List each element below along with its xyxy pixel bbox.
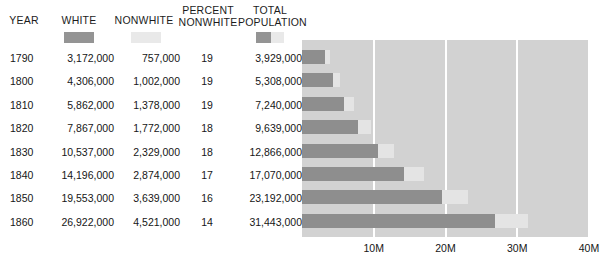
- bar-segment-white: [302, 167, 404, 181]
- cell-white: 3,172,000: [42, 51, 114, 65]
- column-header-total-population: TOTAL POPULATION: [238, 4, 302, 28]
- bar-1820: [302, 120, 371, 134]
- cell-white: 5,862,000: [42, 98, 114, 112]
- bar-segment-white: [302, 97, 344, 111]
- cell-nonwhite: 1,378,000: [112, 98, 180, 112]
- bar-segment-nonwhite: [442, 190, 468, 204]
- cell-nonwhite: 1,002,000: [112, 74, 180, 88]
- chart-x-axis: 10M20M30M40M: [302, 237, 605, 263]
- legend-swatch-total-nonwhite: [271, 32, 284, 43]
- cell-year: 1840: [2, 168, 46, 182]
- cell-year: 1860: [2, 215, 46, 229]
- bar-segment-white: [302, 50, 325, 64]
- cell-nonwhite: 3,639,000: [112, 191, 180, 205]
- bar-segment-white: [302, 144, 378, 158]
- cell-white: 14,196,000: [42, 168, 114, 182]
- cell-year: 1810: [2, 98, 46, 112]
- x-tick-label-40M: 40M: [579, 242, 599, 254]
- cell-percent-nonwhite: 19: [182, 51, 232, 65]
- bar-segment-nonwhite: [495, 214, 527, 228]
- table-row: 18207,867,0001,772,000189,639,000: [0, 118, 302, 141]
- cell-percent-nonwhite: 16: [182, 191, 232, 205]
- cell-nonwhite: 1,772,000: [112, 121, 180, 135]
- legend-swatch-white: [64, 32, 94, 43]
- gridline-20M: [445, 40, 447, 237]
- bar-segment-nonwhite: [344, 97, 354, 111]
- cell-total-population: 7,240,000: [230, 98, 302, 112]
- cell-percent-nonwhite: 14: [182, 215, 232, 229]
- cell-total-population: 31,443,000: [230, 215, 302, 229]
- cell-percent-nonwhite: 18: [182, 121, 232, 135]
- x-tick-label-10M: 10M: [364, 242, 384, 254]
- bar-1850: [302, 190, 468, 204]
- gridline-40M: [588, 40, 590, 237]
- cell-total-population: 17,070,000: [230, 168, 302, 182]
- cell-white: 10,537,000: [42, 145, 114, 159]
- bar-segment-nonwhite: [378, 144, 395, 158]
- bar-segment-white: [302, 214, 495, 228]
- cell-percent-nonwhite: 17: [182, 168, 232, 182]
- cell-total-population: 9,639,000: [230, 121, 302, 135]
- column-header-percent-nonwhite: PERCENT NONWHITE: [176, 4, 240, 28]
- cell-year: 1820: [2, 121, 46, 135]
- column-header-white: WHITE: [48, 14, 110, 26]
- bar-segment-nonwhite: [358, 120, 371, 134]
- cell-nonwhite: 2,874,000: [112, 168, 180, 182]
- legend-swatch-row: [0, 30, 302, 46]
- bar-1840: [302, 167, 424, 181]
- gridline-30M: [516, 40, 518, 237]
- cell-nonwhite: 757,000: [112, 51, 180, 65]
- bar-segment-nonwhite: [325, 50, 330, 64]
- cell-white: 4,306,000: [42, 74, 114, 88]
- table-row: 18105,862,0001,378,000197,240,000: [0, 95, 302, 118]
- cell-total-population: 5,308,000: [230, 74, 302, 88]
- cell-percent-nonwhite: 19: [182, 98, 232, 112]
- cell-year: 1830: [2, 145, 46, 159]
- cell-year: 1800: [2, 74, 46, 88]
- bar-1800: [302, 73, 340, 87]
- x-tick-label-30M: 30M: [507, 242, 527, 254]
- cell-total-population: 12,866,000: [230, 145, 302, 159]
- bar-1790: [302, 50, 330, 64]
- population-bar-chart: [302, 40, 589, 237]
- data-table: YEAR WHITE NONWHITE PERCENT NONWHITE TOT…: [0, 0, 302, 263]
- cell-white: 19,553,000: [42, 191, 114, 205]
- bar-segment-white: [302, 73, 333, 87]
- column-header-year: YEAR: [2, 14, 46, 26]
- table-row: 17903,172,000757,000193,929,000: [0, 48, 302, 71]
- cell-year: 1850: [2, 191, 46, 205]
- cell-total-population: 3,929,000: [230, 51, 302, 65]
- cell-white: 26,922,000: [42, 215, 114, 229]
- legend-swatch-total-white: [256, 32, 271, 43]
- table-row: 18004,306,0001,002,000195,308,000: [0, 71, 302, 94]
- cell-year: 1790: [2, 51, 46, 65]
- cell-total-population: 23,192,000: [230, 191, 302, 205]
- x-tick-label-20M: 20M: [435, 242, 455, 254]
- cell-percent-nonwhite: 18: [182, 145, 232, 159]
- cell-nonwhite: 2,329,000: [112, 145, 180, 159]
- bar-segment-nonwhite: [404, 167, 425, 181]
- gridline-10M: [373, 40, 375, 237]
- cell-nonwhite: 4,521,000: [112, 215, 180, 229]
- table-header-row: YEAR WHITE NONWHITE PERCENT NONWHITE TOT…: [0, 0, 302, 30]
- table-row: 184014,196,0002,874,0001717,070,000: [0, 165, 302, 188]
- cell-white: 7,867,000: [42, 121, 114, 135]
- bar-1830: [302, 144, 394, 158]
- bar-1860: [302, 214, 528, 228]
- cell-percent-nonwhite: 19: [182, 74, 232, 88]
- table-row: 185019,553,0003,639,0001623,192,000: [0, 188, 302, 211]
- column-header-nonwhite: NONWHITE: [110, 14, 178, 26]
- table-row: 183010,537,0002,329,0001812,866,000: [0, 142, 302, 165]
- bar-1810: [302, 97, 354, 111]
- bar-segment-white: [302, 190, 442, 204]
- bar-segment-white: [302, 120, 358, 134]
- infographic-table-chart: YEAR WHITE NONWHITE PERCENT NONWHITE TOT…: [0, 0, 605, 263]
- table-row: 186026,922,0004,521,0001431,443,000: [0, 212, 302, 235]
- bar-segment-nonwhite: [333, 73, 340, 87]
- legend-swatch-nonwhite: [131, 32, 161, 43]
